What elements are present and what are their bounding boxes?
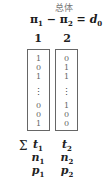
value-cell: 0: [56, 54, 77, 63]
pi1: π1: [30, 13, 43, 26]
value-cell: 1: [56, 63, 77, 72]
column-header-1: 1: [26, 32, 50, 45]
value-cell: 0: [28, 110, 49, 119]
proportion-p2: p2: [55, 164, 79, 179]
value-cell: 1: [28, 119, 49, 128]
sample-box-1: 1 0 1 ⋮ 0 0 1: [27, 49, 50, 131]
value-cell: 0: [28, 101, 49, 110]
d0: d0: [90, 13, 103, 26]
sample-box-2: 0 1 1 ⋮ 1 0 0: [55, 49, 78, 131]
value-cell: 0: [28, 63, 49, 72]
ellipsis: ⋮: [56, 81, 77, 101]
value-cell: 0: [56, 110, 77, 119]
ellipsis: ⋮: [28, 81, 49, 101]
value-cell: 1: [28, 72, 49, 81]
value-cell: 1: [56, 72, 77, 81]
column-header-2: 2: [55, 32, 79, 45]
proportion-p1: p1: [26, 164, 50, 179]
hypothesis-formula: π1 − π2 = d0: [30, 13, 102, 28]
value-cell: 1: [28, 54, 49, 63]
pi2: π2: [60, 13, 73, 26]
value-cell: 0: [56, 119, 77, 128]
value-cell: 1: [56, 101, 77, 110]
